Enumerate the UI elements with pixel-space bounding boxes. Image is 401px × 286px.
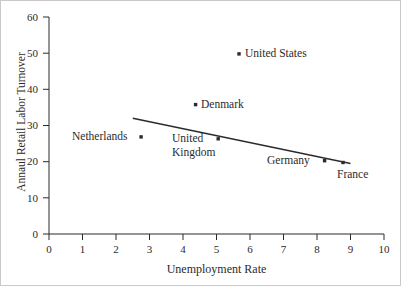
point-label-united-kingdom-line1: United — [172, 132, 203, 145]
x-tick-label-1: 1 — [73, 244, 93, 255]
x-axis-title: Unemployment Rate — [49, 262, 384, 277]
data-point-denmark[interactable] — [194, 103, 197, 106]
x-tick-label-9: 9 — [341, 244, 361, 255]
point-label-france: France — [337, 168, 368, 181]
x-tick-label-0: 0 — [39, 244, 59, 255]
x-tick-label-5: 5 — [207, 244, 227, 255]
x-tick-label-7: 7 — [274, 244, 294, 255]
point-label-germany: Germany — [267, 154, 310, 167]
trend-line — [133, 118, 351, 163]
x-tick-label-3: 3 — [140, 244, 160, 255]
y-tick-label-0: 0 — [16, 229, 38, 240]
data-point-united-kingdom[interactable] — [217, 137, 220, 140]
data-point-germany[interactable] — [323, 159, 326, 162]
point-label-denmark: Denmark — [201, 98, 244, 111]
x-tick-label-4: 4 — [173, 244, 193, 255]
data-point-france[interactable] — [341, 161, 344, 164]
data-point-united-states[interactable] — [237, 52, 240, 55]
point-label-united-kingdom-line2: Kingdom — [172, 146, 215, 159]
x-tick-label-8: 8 — [307, 244, 327, 255]
point-label-united-states: United States — [245, 47, 307, 60]
y-axis-ticks — [43, 17, 49, 234]
x-tick-label-10: 10 — [374, 244, 394, 255]
point-label-netherlands: Netherlands — [72, 130, 128, 143]
x-axis-ticks — [49, 234, 384, 240]
x-tick-label-2: 2 — [106, 244, 126, 255]
chart-figure: 60 50 40 30 20 10 0 0 1 2 3 4 5 6 7 8 9 … — [0, 0, 401, 286]
y-axis-title: Annaul Retail Labor Turnover — [15, 27, 27, 217]
y-tick-label-60: 60 — [16, 12, 38, 23]
x-tick-label-6: 6 — [240, 244, 260, 255]
data-point-netherlands[interactable] — [139, 135, 142, 138]
